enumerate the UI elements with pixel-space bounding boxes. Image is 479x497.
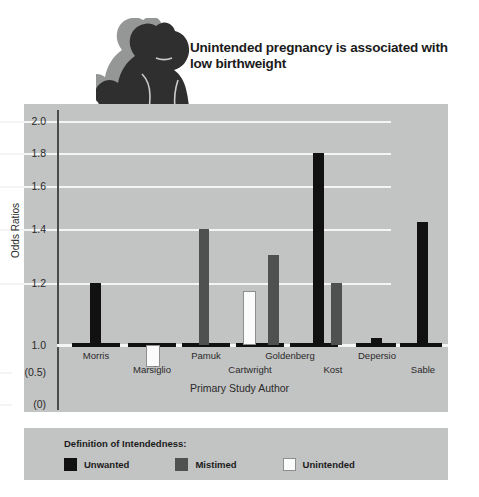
page-title: Unintended pregnancy is associated with … (190, 40, 460, 72)
x-axis-title: Primary Study Author (0, 382, 479, 394)
legend-swatch-unintended-icon (283, 458, 296, 471)
legend-item-unintended: Unintended (283, 458, 355, 471)
legend: Definition of Intendedness: Unwanted Mis… (24, 428, 448, 480)
bar-kost-unwanted (313, 153, 324, 345)
x-label-cartwright: Cartwright (228, 364, 271, 375)
x-label-morris: Morris (83, 350, 109, 361)
bar-cartwright-unintended (243, 291, 256, 345)
y-tick-label: 1.0 (0, 339, 46, 351)
legend-label: Mistimed (195, 459, 236, 470)
y-tick-label: (0.5) (0, 366, 46, 378)
legend-item-mistimed: Mistimed (175, 458, 236, 471)
legend-swatch-unwanted-icon (64, 458, 77, 471)
x-label-sable: Sable (411, 364, 435, 375)
bar-depersio-unwanted (371, 338, 382, 345)
x-label-depersio: Depersio (358, 350, 396, 361)
y-axis-line (57, 110, 59, 410)
y-tick-label: 2.0 (0, 115, 46, 127)
x-label-pamuk: Pamuk (191, 350, 221, 361)
chart-page: Unintended pregnancy is associated with … (0, 0, 479, 497)
legend-items: Unwanted Mistimed Unintended (64, 458, 401, 471)
x-label-kost: Kost (323, 364, 342, 375)
legend-label: Unwanted (84, 459, 129, 470)
bar-kost-mistimed (331, 283, 342, 345)
x-label-marsiglio: Marsiglio (133, 364, 171, 375)
y-tick-label: 1.6 (0, 180, 46, 192)
bar-goldenberg-mistimed (268, 255, 279, 345)
legend-swatch-mistimed-icon (175, 458, 188, 471)
bar-sable-unwanted (417, 222, 428, 345)
legend-label: Unintended (303, 459, 355, 470)
legend-item-unwanted: Unwanted (64, 458, 129, 471)
y-tick-label: 1.8 (0, 147, 46, 159)
y-axis-title: Odds Ratios (10, 203, 21, 258)
legend-title: Definition of Intendedness: (64, 438, 186, 449)
y-tick-label: (0) (0, 398, 46, 410)
bar-pamuk-mistimed (199, 229, 209, 345)
bar-morris-unwanted (90, 283, 101, 345)
y-tick-label: 1.2 (0, 277, 46, 289)
x-label-goldenberg: Goldenberg (265, 350, 315, 361)
y-tick-label: 1.4 (0, 223, 46, 235)
